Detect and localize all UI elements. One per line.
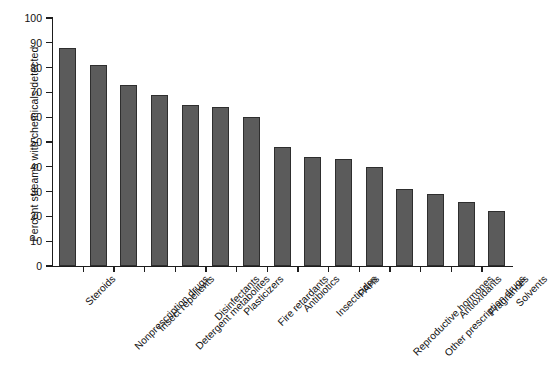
bar (243, 117, 260, 266)
y-axis-tick (46, 216, 52, 217)
y-axis-tick (46, 17, 52, 18)
x-axis-tick (83, 266, 84, 272)
bar (427, 194, 444, 266)
bar (59, 48, 76, 266)
x-axis-tick (328, 266, 329, 272)
y-axis-tick-label: 60 (2, 112, 42, 123)
y-axis-tick-label: 40 (2, 162, 42, 173)
bar (396, 189, 413, 266)
y-axis-tick-label: 100 (2, 13, 42, 24)
y-axis-tick-label: 70 (2, 87, 42, 98)
x-axis-tick (205, 266, 206, 272)
bar (488, 211, 505, 266)
y-axis-tick (46, 265, 52, 266)
x-axis-tick (175, 266, 176, 272)
y-axis-tick-label: 20 (2, 211, 42, 222)
y-axis-tick (46, 42, 52, 43)
x-axis-tick (267, 266, 268, 272)
x-axis-tick (113, 266, 114, 272)
x-axis-tick (236, 266, 237, 272)
x-axis-tick (297, 266, 298, 272)
x-axis-label: Steroids (84, 274, 118, 308)
x-axis-tick (144, 266, 145, 272)
y-axis-tick-label: 50 (2, 137, 42, 148)
y-axis-tick-label: 30 (2, 187, 42, 198)
y-axis-tick (46, 92, 52, 93)
x-axis-label: Insect repellents (156, 274, 216, 334)
y-axis-tick-label: 0 (2, 261, 42, 272)
bar (151, 95, 168, 266)
bar (274, 147, 291, 266)
y-axis-tick (46, 141, 52, 142)
x-axis-tick (481, 266, 482, 272)
x-axis-tick (451, 266, 452, 272)
y-axis-tick (46, 166, 52, 167)
x-axis-tick (389, 266, 390, 272)
y-axis-tick (46, 117, 52, 118)
x-axis-tick (359, 266, 360, 272)
bar (458, 202, 475, 266)
bar (366, 167, 383, 266)
bar (120, 85, 137, 266)
y-axis-tick (46, 241, 52, 242)
y-axis-tick-label: 90 (2, 38, 42, 49)
bar (212, 107, 229, 266)
x-axis-tick (420, 266, 421, 272)
bar (90, 65, 107, 266)
y-axis-tick (46, 191, 52, 192)
y-axis-tick-label: 10 (2, 236, 42, 247)
y-axis-tick (46, 67, 52, 68)
bar (335, 159, 352, 266)
y-axis-tick-label: 80 (2, 63, 42, 74)
bar (304, 157, 321, 266)
y-axis-line (52, 17, 53, 267)
bar (182, 105, 199, 266)
x-axis-label: PAHs (357, 274, 382, 299)
